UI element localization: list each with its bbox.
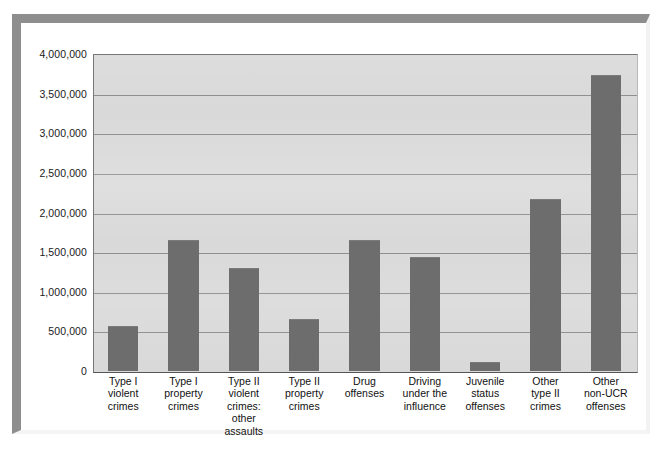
y-tick-label: 3,000,000	[39, 127, 87, 139]
x-tick-label-line: crimes:	[211, 400, 276, 412]
bar	[108, 326, 138, 371]
bar	[470, 362, 500, 372]
bar	[591, 75, 621, 371]
x-tick-label-line: Type II	[211, 375, 276, 387]
bar	[349, 240, 379, 371]
x-tick-label-line: property	[151, 387, 216, 399]
y-tick-label: 1,500,000	[39, 246, 87, 258]
x-tick-label: Type IIpropertycrimes	[272, 375, 337, 412]
x-tick-label-line: assaults	[211, 425, 276, 437]
bar-series	[93, 54, 636, 371]
x-tick-label-line: Drug	[332, 375, 397, 387]
bar	[530, 199, 560, 371]
figure-inner: 0500,0001,000,0001,500,0002,000,0002,500…	[21, 23, 646, 430]
x-tick-label: Juvenilestatusoffenses	[453, 375, 518, 412]
x-tick-label-line: Other	[573, 375, 638, 387]
x-tick-label-line: crimes	[91, 400, 156, 412]
x-tick-label: Drivingunder theinfluence	[392, 375, 457, 412]
y-tick-label: 500,000	[48, 325, 87, 337]
y-axis: 0500,0001,000,0001,500,0002,000,0002,500…	[21, 23, 91, 443]
x-tick-label-line: under the	[392, 387, 457, 399]
x-tick-label-line: property	[272, 387, 337, 399]
x-tick-label-line: offenses	[573, 400, 638, 412]
bar	[168, 240, 198, 371]
x-tick-label-line: offenses	[453, 400, 518, 412]
x-tick-label-line: Type I	[91, 375, 156, 387]
x-tick-label-line: crimes	[151, 400, 216, 412]
x-tick-label-line: Type II	[272, 375, 337, 387]
cropped-page-text	[44, 0, 344, 6]
x-axis: Type IviolentcrimesType IpropertycrimesT…	[93, 375, 636, 445]
y-tick-label: 2,000,000	[39, 207, 87, 219]
x-tick-label-line: non-UCR	[573, 387, 638, 399]
x-tick-label-line: influence	[392, 400, 457, 412]
bar-chart: 0500,0001,000,0001,500,0002,000,0002,500…	[21, 23, 659, 443]
y-tick-label: 3,500,000	[39, 88, 87, 100]
y-tick-label: 0	[81, 365, 87, 377]
figure-frame: 0500,0001,000,0001,500,0002,000,0002,500…	[12, 14, 650, 434]
x-tick-label-line: violent	[211, 387, 276, 399]
y-tick-label: 2,500,000	[39, 167, 87, 179]
x-tick-label: Othernon-UCRoffenses	[573, 375, 638, 412]
x-tick-label-line: offenses	[332, 387, 397, 399]
x-tick-label-line: Other	[513, 375, 578, 387]
x-tick-label-line: crimes	[513, 400, 578, 412]
bar	[410, 257, 440, 371]
bar	[289, 319, 319, 371]
x-tick-label: Type IIviolentcrimes:otherassaults	[211, 375, 276, 437]
x-tick-label-line: Type I	[151, 375, 216, 387]
x-tick-label-line: Driving	[392, 375, 457, 387]
x-tick-label-line: crimes	[272, 400, 337, 412]
x-tick-label: Type Ipropertycrimes	[151, 375, 216, 412]
bar	[229, 268, 259, 371]
x-tick-label: Type Iviolentcrimes	[91, 375, 156, 412]
x-tick-label-line: Juvenile	[453, 375, 518, 387]
y-tick-label: 1,000,000	[39, 286, 87, 298]
x-tick-label: Drugoffenses	[332, 375, 397, 400]
x-tick-label-line: other	[211, 412, 276, 424]
x-tick-label-line: violent	[91, 387, 156, 399]
y-tick-label: 4,000,000	[39, 48, 87, 60]
x-tick-label: Othertype IIcrimes	[513, 375, 578, 412]
x-tick-label-line: type II	[513, 387, 578, 399]
x-tick-label-line: status	[453, 387, 518, 399]
